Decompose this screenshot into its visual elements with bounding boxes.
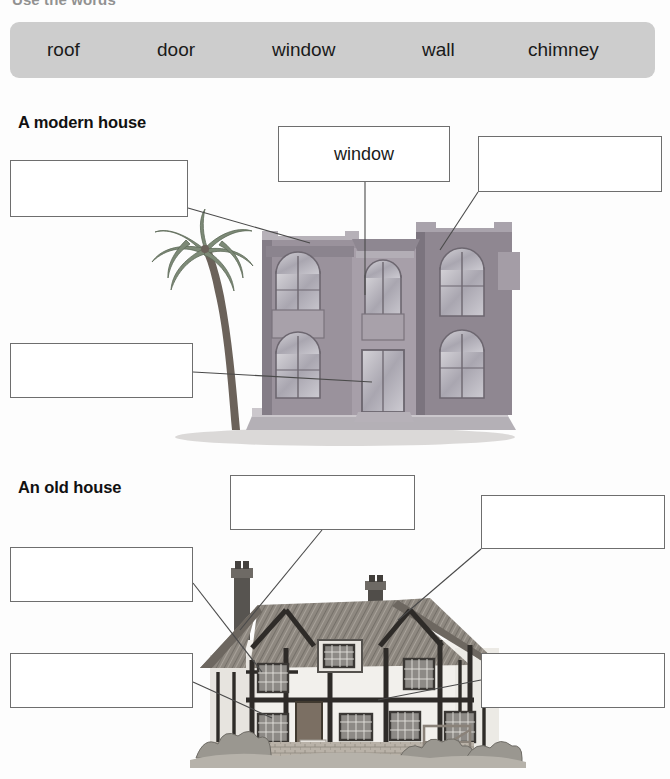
old-house-window-answer-box[interactable]: [10, 653, 193, 708]
section-heading-old-house: An old house: [18, 478, 121, 497]
leader-line-old-chimney: [240, 530, 322, 630]
leader-line-modern-door: [193, 372, 372, 382]
old-house-chimney-answer-box[interactable]: [230, 475, 415, 530]
word-bank-item-roof[interactable]: roof: [47, 39, 80, 61]
leader-line-old-window: [193, 682, 272, 718]
word-bank-item-window[interactable]: window: [272, 39, 335, 61]
word-bank: roof door window wall chimney: [10, 22, 655, 78]
old-house-wall-left-answer-box[interactable]: [10, 547, 193, 602]
garden-gate: [424, 726, 470, 758]
instruction-text: Use the words: [12, 0, 116, 8]
modern-house-illustration: [152, 209, 520, 446]
word-bank-item-wall[interactable]: wall: [422, 39, 455, 61]
old-house-chimney-right: [365, 575, 386, 628]
leader-line-modern-roof: [188, 208, 310, 243]
modern-house-window-answer-box[interactable]: window: [278, 126, 450, 182]
worksheet-page: Use the words roof door window wall chim…: [0, 0, 670, 779]
modern-house-roof-answer-box[interactable]: [10, 160, 188, 217]
leader-line-old-roof: [398, 549, 481, 620]
leader-line-old-wall-left: [193, 583, 262, 672]
old-house-door: [296, 702, 329, 756]
old-house-chimney-left: [231, 561, 253, 657]
modern-house-door: [354, 350, 414, 422]
word-bank-item-chimney[interactable]: chimney: [528, 39, 599, 61]
old-house-roof-answer-box[interactable]: [481, 495, 665, 549]
leader-line-old-wall-right: [378, 680, 481, 700]
modern-house-wall-answer-box[interactable]: [478, 136, 662, 192]
leader-line-modern-wall: [440, 192, 478, 250]
old-house-windows: [258, 645, 475, 742]
old-house-illustration: [190, 561, 526, 768]
old-house-wall-right-answer-box[interactable]: [481, 653, 665, 708]
word-bank-item-door[interactable]: door: [157, 39, 195, 61]
section-heading-modern-house: A modern house: [18, 113, 146, 132]
modern-house-door-answer-box[interactable]: [10, 343, 193, 398]
